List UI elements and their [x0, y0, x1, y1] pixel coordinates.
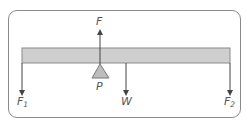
force-label-f: F [96, 15, 103, 28]
force-label-w: W [121, 95, 133, 108]
force-label-f1: F1 [17, 95, 28, 109]
fulcrum-label-p: P [96, 80, 103, 93]
beam [22, 48, 230, 63]
lever-diagram: F P F1 W F2 [0, 0, 248, 126]
force-label-f2: F2 [224, 95, 235, 109]
fulcrum-triangle [92, 64, 109, 78]
